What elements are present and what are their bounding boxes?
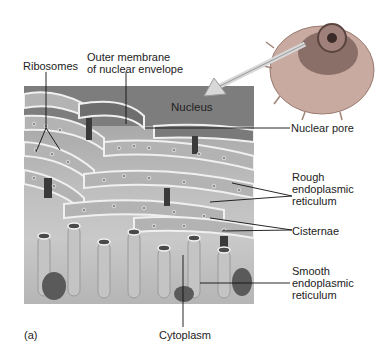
label-nuclear-pore: Nuclear pore — [291, 122, 354, 134]
label-outer-membrane-line2: of nuclear envelope — [87, 63, 183, 75]
label-cytoplasm: Cytoplasm — [159, 329, 211, 341]
label-ribosomes: Ribosomes — [23, 60, 78, 72]
label-rough-er-line3: reticulum — [292, 195, 337, 207]
label-rough-er-line2: endoplasmic — [292, 183, 354, 195]
leader-lines — [0, 0, 387, 359]
label-cisternae: Cisternae — [292, 225, 339, 237]
label-smooth-er-line1: Smooth — [292, 265, 330, 277]
panel-letter: (a) — [24, 329, 37, 341]
label-outer-membrane-line1: Outer membrane — [87, 51, 170, 63]
label-rough-er-line1: Rough — [292, 171, 324, 183]
label-nucleus: Nucleus — [171, 101, 213, 113]
label-smooth-er-line3: reticulum — [292, 289, 337, 301]
label-smooth-er-line2: endoplasmic — [292, 277, 354, 289]
